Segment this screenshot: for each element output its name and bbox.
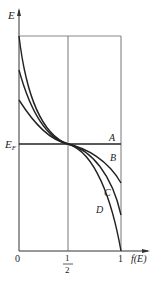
y-axis-arrow-icon xyxy=(17,8,21,16)
x-tick-1: 1 xyxy=(118,253,123,264)
fermi-level-label: EF xyxy=(4,138,17,152)
curve-a-label: A xyxy=(108,132,116,143)
curve-d-label: D xyxy=(95,204,104,215)
x-tick-0: 0 xyxy=(15,253,20,264)
x-tick-half-den: 2 xyxy=(65,265,70,275)
fermi-dirac-diagram: E EF A B C D 0 1 2 1 f(E) xyxy=(0,0,165,291)
x-axis-label: f(E) xyxy=(131,253,147,265)
x-tick-half-num: 1 xyxy=(65,253,70,263)
curve-b-label: B xyxy=(110,152,116,163)
y-axis-label: E xyxy=(7,9,15,21)
curve-c-label: C xyxy=(104,187,111,198)
